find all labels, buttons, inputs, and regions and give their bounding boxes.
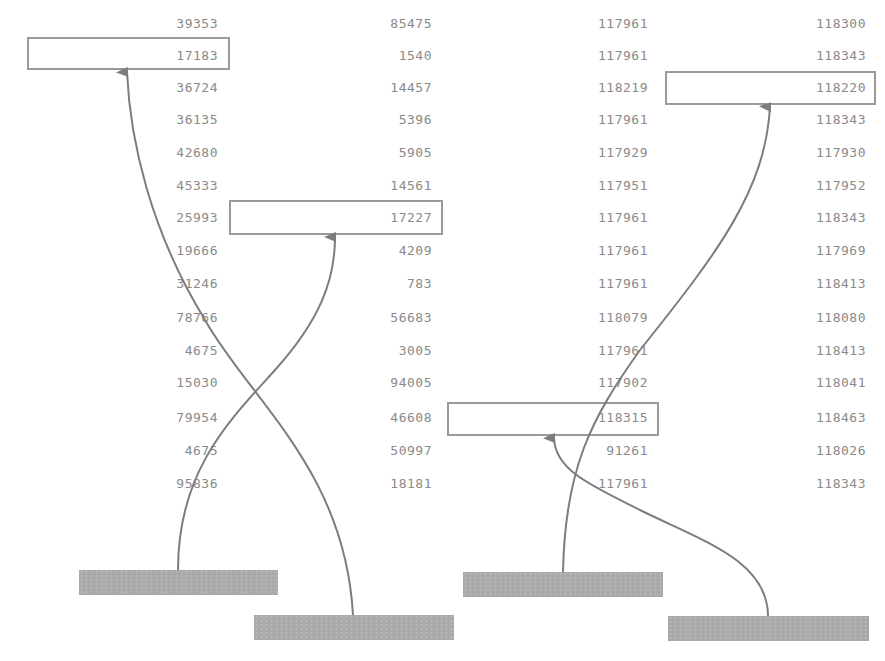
arrow-layer xyxy=(0,0,885,661)
arrow-bar4-to-118315 xyxy=(554,438,768,616)
arrow-bar2-to-17183 xyxy=(127,72,353,615)
arrow-bar3-to-118220 xyxy=(563,107,770,572)
arrow-bar1-to-17227 xyxy=(178,237,335,570)
